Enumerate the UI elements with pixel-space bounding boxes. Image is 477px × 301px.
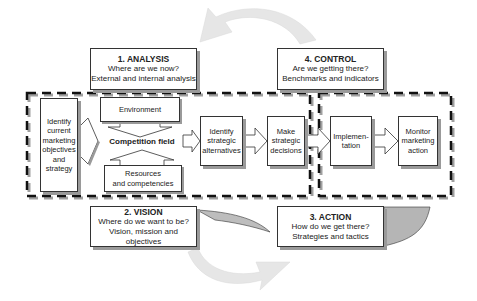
phase-control-detail: Benchmarks and indicators <box>282 74 379 84</box>
phase-control-title: 4. CONTROL <box>305 54 356 64</box>
phase-action-question: How do we get there? <box>292 222 370 232</box>
phase-vision-detail: Vision, mission and objectives <box>91 227 196 247</box>
phase-control: 4. CONTROL Are we getting there? Benchma… <box>277 48 384 90</box>
swoosh-action-icon <box>384 207 430 246</box>
phase-action: 3. ACTION How do we get there? Strategie… <box>277 206 384 247</box>
phase-analysis-detail: External and internal analysis <box>91 74 196 84</box>
step-environment-label: Environment <box>119 105 161 115</box>
step-resources-line2: and competencies <box>113 179 174 189</box>
step-alternatives: Identify strategic alternatives <box>200 116 243 166</box>
phase-vision-question: Where do we want to be? <box>98 217 189 227</box>
step-resources-line1: Resources <box>125 169 161 179</box>
step-monitor-label: Monitor marketing action <box>401 127 435 156</box>
step-decisions: Make strategic decisions <box>267 116 305 166</box>
cycle-arrow-top-icon <box>200 8 316 44</box>
step-environment: Environment <box>100 97 180 122</box>
competition-field-label: Competition field <box>100 137 184 146</box>
step-monitor: Monitor marketing action <box>398 116 438 166</box>
phase-action-detail: Strategies and tactics <box>292 232 368 242</box>
phase-vision: 2. VISION Where do we want to be? Vision… <box>90 206 197 247</box>
step-alternatives-label: Identify strategic alternatives <box>202 127 240 156</box>
step-resources: Resources and competencies <box>104 165 182 192</box>
step-current-objectives: Identify current marketing objectives an… <box>40 98 78 192</box>
phase-analysis-question: Where are we now? <box>108 64 179 74</box>
step-decisions-label: Make strategic decisions <box>270 127 302 156</box>
step-implementation-label: Implemen-tation <box>333 132 369 151</box>
step-current-objectives-label: Identify current marketing objectives an… <box>42 117 75 174</box>
phase-vision-title: 2. VISION <box>124 207 162 217</box>
phase-control-question: Are we getting there? <box>292 64 368 74</box>
cycle-arrow-bottom-icon <box>188 248 290 290</box>
phase-action-title: 3. ACTION <box>310 212 352 222</box>
step-implementation: Implemen-tation <box>330 116 372 166</box>
phase-analysis-title: 1. ANALYSIS <box>118 54 169 64</box>
phase-analysis: 1. ANALYSIS Where are we now? External a… <box>90 48 197 90</box>
swoosh-vision-icon <box>197 210 270 232</box>
